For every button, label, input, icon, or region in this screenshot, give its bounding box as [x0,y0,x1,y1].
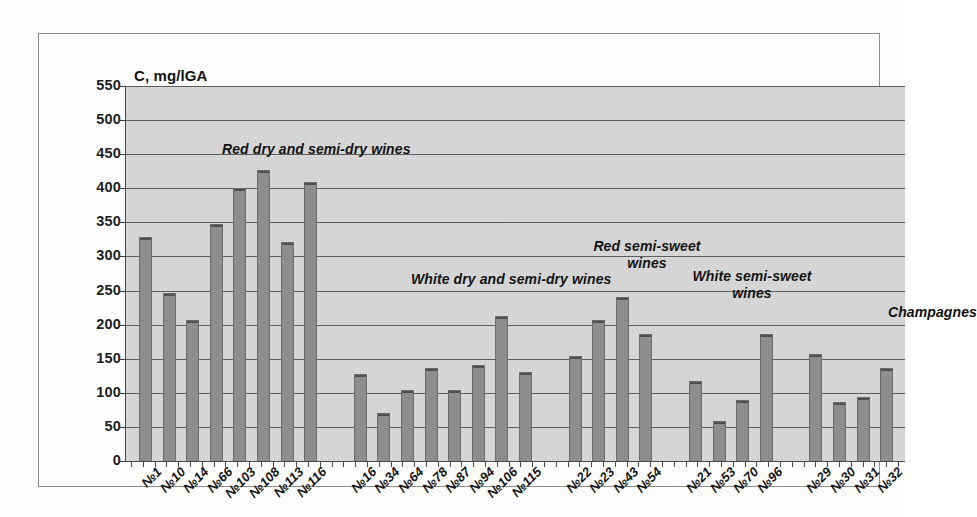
y-tick-label: 50 [81,419,121,434]
bar [186,320,199,461]
group-annotation: White semi-sweetwines [692,268,811,302]
bar [639,334,652,462]
y-tick-label: 0 [81,453,121,468]
bar [163,293,176,461]
x-tick-label: №64 [395,464,427,496]
y-tick-label: 300 [81,248,121,263]
annotation-line: Champagnes [888,304,977,321]
x-tick-label: №23 [586,464,618,496]
x-tick-label: №70 [730,464,762,496]
y-tick-label: 400 [81,180,121,195]
bar [257,170,270,461]
bar [519,372,532,461]
chart-frame: C, mg/lGA 550500450400350300250200150100… [38,33,880,487]
y-tick-label: 500 [81,112,121,127]
chart-title: C, mg/lGA [134,67,207,84]
y-tick-label: 150 [81,351,121,366]
bar [689,381,702,461]
bar [857,397,870,461]
x-tick-label: №96 [754,464,786,496]
annotation-line: wines [692,285,811,302]
x-axis-labels: №1№10№14№66№103№108№113№116№16№34№64№78№… [125,464,915,517]
bar [233,188,246,461]
bar [736,400,749,461]
y-axis: 550500450400350300250200150100500 [77,86,121,461]
group-annotation: White dry and semi-dry wines [411,271,611,288]
group-annotation: Red dry and semi-dry wines [222,141,411,158]
bar [448,390,461,461]
annotation-line: Red semi-sweet [593,238,700,255]
bar [139,237,152,461]
x-tick-label: №32 [874,464,906,496]
bar [377,413,390,461]
x-tick-label: №87 [442,464,474,496]
annotation-line: White semi-sweet [692,268,811,285]
bar [592,320,605,461]
annotation-line: wines [593,255,700,272]
bar [472,365,485,461]
group-annotation: Champagnes [888,304,977,321]
bar [760,334,773,462]
bar [354,374,367,461]
bar [281,242,294,461]
gridline [126,86,905,87]
y-tick-label: 200 [81,317,121,332]
group-annotation: Red semi-sweetwines [593,238,700,272]
x-tick-label: №54 [633,464,665,496]
annotation-line: Red dry and semi-dry wines [222,141,411,158]
bar [833,402,846,461]
gridline [126,120,905,121]
x-tick-label: №21 [683,464,715,496]
bar [495,316,508,461]
bar [616,297,629,461]
y-tick-label: 100 [81,385,121,400]
bar [425,368,438,461]
bar [569,356,582,461]
bar [809,354,822,461]
bar [880,368,893,461]
y-tick-label: 250 [81,283,121,298]
bar [304,182,317,461]
x-tick-label: №30 [827,464,859,496]
y-tick-label: 350 [81,214,121,229]
plot-area: Red dry and semi-dry winesWhite dry and … [125,86,905,462]
y-tick-label: 550 [81,78,121,93]
bar [713,421,726,461]
x-tick-label: №14 [180,464,212,496]
y-tick-label: 450 [81,146,121,161]
bar [210,224,223,461]
bar [401,390,414,461]
annotation-line: White dry and semi-dry wines [411,271,611,288]
